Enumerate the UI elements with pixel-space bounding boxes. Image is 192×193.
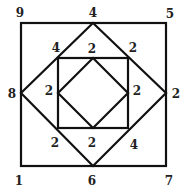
label-diamond-upper-left: 4: [52, 42, 60, 54]
diagram-canvas: [0, 0, 192, 193]
label-outer-left-mid: 8: [8, 88, 16, 100]
label-outer-top-left: 9: [16, 7, 24, 19]
label-inner-bottom: 2: [88, 137, 96, 149]
label-outer-bottom-left: 1: [15, 175, 23, 187]
label-inner-top: 2: [88, 43, 96, 55]
label-diamond-lower-left: 2: [51, 137, 59, 149]
label-inner-right: 2: [133, 85, 141, 97]
label-outer-right-mid: 2: [172, 88, 180, 100]
label-outer-bottom-mid: 6: [88, 175, 96, 187]
label-outer-bottom-right: 7: [165, 175, 173, 187]
label-diamond-lower-right: 4: [130, 139, 138, 151]
inner-diamond: [58, 58, 128, 128]
label-diamond-upper-right: 2: [129, 42, 137, 54]
label-outer-top-mid: 4: [89, 7, 97, 19]
label-inner-left: 2: [45, 85, 53, 97]
label-outer-top-right: 5: [166, 8, 174, 20]
inner-square: [58, 58, 128, 128]
